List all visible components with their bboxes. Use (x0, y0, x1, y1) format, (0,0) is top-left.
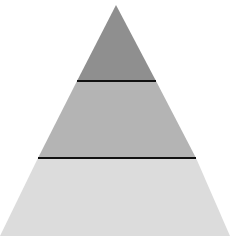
pyramid-diagram (0, 0, 230, 237)
pyramid-tier-bottom (0, 158, 230, 236)
pyramid-tier-top (77, 5, 156, 81)
pyramid-tier-middle (38, 81, 196, 158)
